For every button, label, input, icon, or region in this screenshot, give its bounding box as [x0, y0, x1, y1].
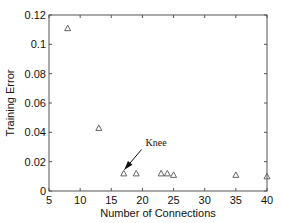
- y-axis-label: Training Error: [4, 69, 16, 136]
- scatter-chart: 510152025303540 00.020.040.060.080.10.12…: [0, 0, 282, 223]
- annotations: Knee: [124, 137, 167, 170]
- x-tick-label: 40: [261, 194, 273, 206]
- data-points: [65, 25, 270, 179]
- plot-frame: [49, 15, 267, 191]
- knee-annotation-label: Knee: [146, 137, 168, 148]
- triangle-marker: [121, 170, 127, 176]
- triangle-marker: [158, 170, 164, 176]
- axes-box: [49, 15, 267, 191]
- triangle-marker: [65, 25, 71, 31]
- x-tick-label: 15: [105, 194, 117, 206]
- triangle-marker: [96, 125, 102, 131]
- y-tick-label: 0.12: [25, 9, 46, 21]
- y-tick-label: 0.08: [25, 68, 46, 80]
- triangle-marker: [233, 172, 239, 178]
- triangle-marker: [164, 170, 170, 176]
- triangle-marker: [171, 172, 177, 178]
- x-axis-label: Number of Connections: [100, 207, 216, 219]
- x-tick-label: 10: [74, 194, 86, 206]
- x-tick-label: 35: [230, 194, 242, 206]
- y-tick-label: 0.04: [25, 126, 46, 138]
- x-tick-label: 25: [167, 194, 179, 206]
- triangle-marker: [133, 170, 139, 176]
- x-tick-label: 30: [199, 194, 211, 206]
- y-axis-ticks: 00.020.040.060.080.10.12: [25, 9, 267, 197]
- y-tick-label: 0: [40, 185, 46, 197]
- x-tick-label: 5: [46, 194, 52, 206]
- y-tick-label: 0.06: [25, 97, 46, 109]
- y-tick-label: 0.02: [25, 156, 46, 168]
- x-tick-label: 20: [136, 194, 148, 206]
- y-tick-label: 0.1: [31, 38, 46, 50]
